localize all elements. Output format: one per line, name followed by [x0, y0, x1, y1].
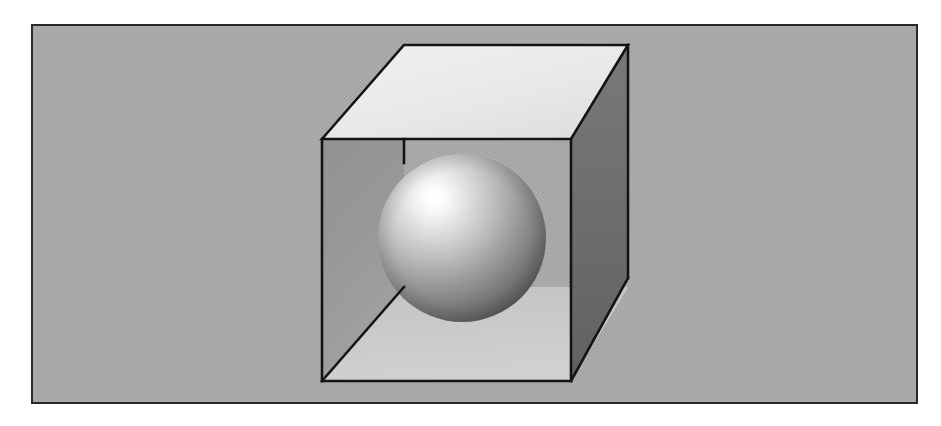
render-canvas	[0, 0, 941, 426]
scene-root	[0, 0, 941, 426]
sphere-group	[378, 154, 546, 322]
sphere-specular-highlight	[429, 194, 441, 206]
sphere-limb-shading	[378, 154, 546, 322]
